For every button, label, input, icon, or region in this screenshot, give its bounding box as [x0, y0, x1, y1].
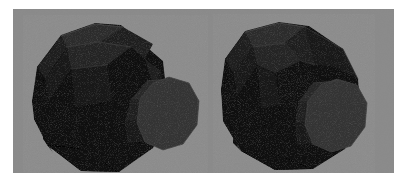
film-grain-overlay [13, 9, 394, 173]
three-d-scene [13, 9, 394, 173]
figure-root: Two shaded stepped decagonal prisms [0, 0, 404, 182]
render-canvas-plate [13, 9, 394, 173]
